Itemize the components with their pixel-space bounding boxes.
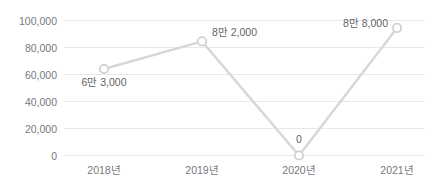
series-markers [100,24,401,160]
data-point-2020[interactable] [295,151,303,159]
data-point-2018[interactable] [100,65,108,73]
data-label-2021: 8만 8,000 [343,17,388,29]
y-tick-label: 80,000 [25,42,57,54]
y-tick-label: 40,000 [25,96,57,108]
x-tick-label-2019: 2019년 [185,164,218,176]
y-tick-label: 20,000 [25,123,57,135]
data-label-2019: 8만 2,000 [212,26,257,38]
x-tick-label-2018: 2018년 [87,164,120,176]
x-tick-label-2021: 2021년 [380,164,413,176]
x-tick-label-2020: 2020년 [282,164,315,176]
data-label-2020: 0 [296,133,302,145]
data-point-2021[interactable] [393,24,401,32]
chart-canvas: 100,000 80,000 60,000 40,000 20,000 0 6만… [0,0,446,189]
line-chart: 100,000 80,000 60,000 40,000 20,000 0 6만… [0,0,446,189]
x-axis-tick-labels: 2018년 2019년 2020년 2021년 [87,164,413,176]
y-tick-label: 60,000 [25,69,57,81]
data-label-2018: 6만 3,000 [81,76,126,88]
data-point-2019[interactable] [198,37,206,45]
gridlines [64,21,425,156]
y-tick-label: 100,000 [19,15,57,27]
y-axis-tick-labels: 100,000 80,000 60,000 40,000 20,000 0 [19,15,57,162]
y-tick-label: 0 [51,150,57,162]
